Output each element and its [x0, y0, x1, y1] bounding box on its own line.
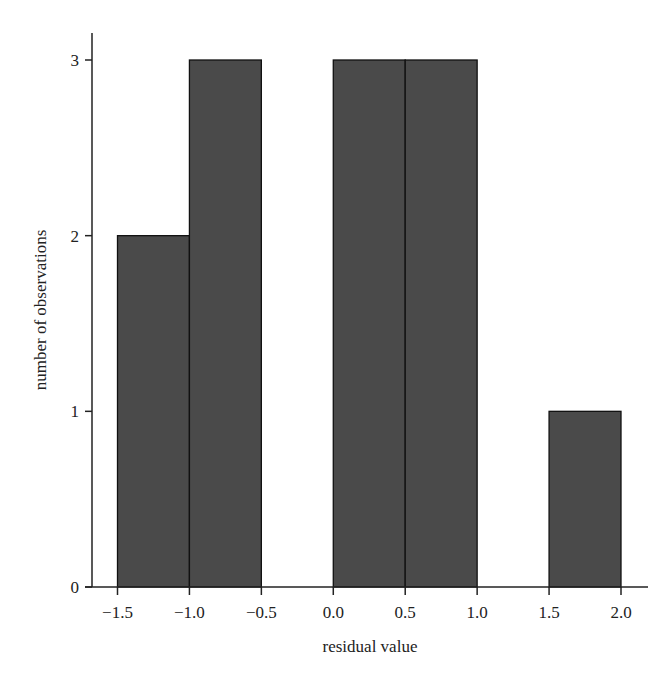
- x-tick-label: −1.0: [174, 603, 205, 622]
- histogram-bar: [333, 60, 405, 587]
- x-tick-label: −1.5: [102, 603, 133, 622]
- x-tick-label: −0.5: [246, 603, 277, 622]
- x-tick-label: 1.0: [467, 603, 488, 622]
- y-tick-label: 0: [71, 578, 80, 597]
- x-tick-label: 0.0: [323, 603, 344, 622]
- x-axis-title: residual value: [323, 637, 418, 656]
- y-tick-label: 3: [71, 51, 80, 70]
- histogram-bar: [189, 60, 261, 587]
- histogram-bar: [549, 411, 621, 587]
- x-tick-label: 2.0: [610, 603, 631, 622]
- y-tick-label: 1: [71, 402, 80, 421]
- histogram-bars: [118, 60, 622, 587]
- histogram-bar: [118, 236, 190, 587]
- y-axis-title: number of observations: [31, 230, 50, 391]
- histogram-bar: [405, 60, 477, 587]
- y-tick-label: 2: [71, 227, 80, 246]
- x-axis-ticks: −1.5−1.0−0.50.00.51.01.52.0: [102, 587, 632, 622]
- histogram-chart: 0123 −1.5−1.0−0.50.00.51.01.52.0 residua…: [0, 0, 669, 681]
- x-tick-label: 0.5: [395, 603, 416, 622]
- y-axis-ticks: 0123: [71, 51, 93, 597]
- x-tick-label: 1.5: [538, 603, 559, 622]
